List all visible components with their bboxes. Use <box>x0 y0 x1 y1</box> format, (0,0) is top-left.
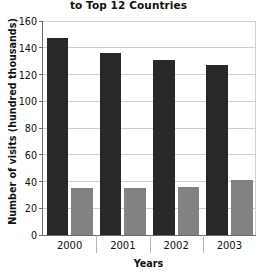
y-tick-mark <box>39 21 43 22</box>
bar <box>206 65 228 235</box>
y-tick-label: 100 <box>19 96 37 107</box>
y-tick-mark <box>39 101 43 102</box>
y-tick-mark <box>39 47 43 48</box>
y-axis-title: Number of visits (hundred thousands) <box>7 14 18 229</box>
chart-title: to Top 12 Countries <box>0 0 257 11</box>
y-tick-label: 40 <box>25 176 37 187</box>
x-group-divider <box>96 235 97 253</box>
y-tick-mark <box>39 181 43 182</box>
x-group-divider <box>150 235 151 253</box>
gridline <box>43 21 256 22</box>
x-tick-label: 2003 <box>217 240 242 251</box>
x-group-divider <box>203 235 204 253</box>
x-tick-label: 2000 <box>57 240 82 251</box>
y-tick-label: 20 <box>25 203 37 214</box>
plot-area: 020406080100120140160 2000200120022003 <box>42 21 256 236</box>
bar <box>71 188 93 235</box>
y-tick-label: 0 <box>31 230 37 241</box>
y-tick-mark <box>39 128 43 129</box>
bar <box>153 60 175 235</box>
y-tick-mark <box>39 208 43 209</box>
x-tick-label: 2002 <box>163 240 188 251</box>
x-axis-title: Years <box>42 258 255 269</box>
bar <box>124 188 146 235</box>
y-tick-mark <box>39 235 43 236</box>
bar <box>178 187 200 235</box>
y-tick-label: 120 <box>19 69 37 80</box>
bar <box>231 180 253 235</box>
x-tick-label: 2001 <box>110 240 135 251</box>
bar-chart: to Top 12 Countries Number of visits (hu… <box>0 0 257 272</box>
y-tick-label: 80 <box>25 123 37 134</box>
gridline <box>43 47 256 48</box>
y-tick-label: 140 <box>19 42 37 53</box>
y-tick-mark <box>39 154 43 155</box>
y-tick-label: 60 <box>25 149 37 160</box>
bar <box>47 38 69 235</box>
y-tick-label: 160 <box>19 16 37 27</box>
y-tick-mark <box>39 74 43 75</box>
bar <box>100 53 122 235</box>
